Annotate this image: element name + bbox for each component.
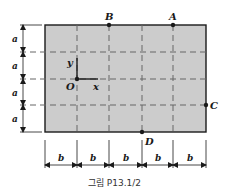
point-d xyxy=(140,130,144,134)
x-axis-label: x xyxy=(92,81,100,92)
label-b: B xyxy=(104,11,113,22)
dim-b-3: b xyxy=(123,153,129,163)
point-c xyxy=(204,103,208,107)
label-c: C xyxy=(210,100,218,111)
y-axis-label: y xyxy=(66,57,74,68)
dim-b-1: b xyxy=(58,153,64,163)
plate-diagram: a a a a b b b b b y x O B A C D 그림 P13.1… xyxy=(0,0,230,196)
dim-a-4: a xyxy=(12,114,18,124)
point-b xyxy=(107,23,111,27)
dim-b-4: b xyxy=(155,153,161,163)
dim-b-5: b xyxy=(187,153,193,163)
figure-caption: 그림 P13.1/2 xyxy=(88,177,141,188)
label-a: A xyxy=(168,11,177,22)
label-d: D xyxy=(144,136,154,147)
dim-a-2: a xyxy=(12,61,18,71)
dim-b-2: b xyxy=(90,153,96,163)
dim-a-1: a xyxy=(12,34,18,44)
dim-a-3: a xyxy=(12,88,18,98)
label-o: O xyxy=(66,81,75,92)
point-a xyxy=(171,23,175,27)
point-o xyxy=(75,77,79,81)
